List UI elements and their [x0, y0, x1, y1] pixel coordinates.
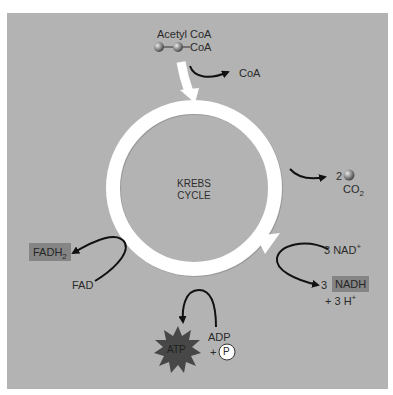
coa-released-label: CoA: [239, 67, 260, 79]
cycle-title-line1: KREBS: [164, 178, 224, 190]
proton-text: + 3 H: [325, 295, 352, 307]
atp-label: ATP: [167, 344, 186, 356]
co2-count: 2: [336, 170, 342, 182]
co2-release-arrow: [290, 169, 325, 178]
acetyl-molecule-icon: [154, 42, 190, 52]
nadh-count: 3: [321, 279, 327, 291]
nad-label: 3 NAD+: [324, 244, 361, 256]
co2-subscript: 2: [360, 189, 364, 198]
co2-molecule-icon: [344, 170, 355, 181]
co2-text: CO: [343, 183, 360, 195]
nad-text: 3 NAD: [324, 244, 356, 256]
atp-synthesis-arrow: [183, 290, 216, 327]
co2-label: CO2: [343, 183, 364, 195]
fad-label: FAD: [72, 279, 93, 291]
acetyl-coa-label: Acetyl CoA: [157, 28, 211, 40]
acetyl-entry-arrow: [180, 62, 199, 103]
proton-sup: +: [352, 293, 357, 302]
proton-label: + 3 H+: [325, 295, 356, 307]
cycle-title: KREBS CYCLE: [164, 178, 224, 202]
nad-sup: +: [356, 242, 361, 251]
phosphate-label: P: [223, 346, 230, 358]
adp-label: ADP: [208, 331, 231, 343]
fadh2-box: FADH2: [29, 243, 71, 261]
fad-reduction-arrow: [73, 237, 126, 281]
nadh-box: NADH: [332, 276, 369, 292]
coa-release-arrow: [190, 66, 228, 77]
acetyl-coa-suffix-label: CoA: [190, 41, 211, 53]
fadh-text: FADH: [33, 246, 62, 258]
fadh-subscript: 2: [62, 252, 66, 261]
plus-sign: +: [210, 346, 216, 358]
cycle-title-line2: CYCLE: [164, 190, 224, 202]
